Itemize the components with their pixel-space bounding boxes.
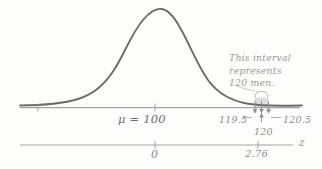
z-axis-zero-label: 0: [151, 148, 158, 162]
annotation-line-3: 120 men.: [229, 77, 291, 89]
z-axis-name-label: z: [299, 136, 305, 149]
interval-lower-bound-label: 119.5: [219, 114, 247, 126]
figure-container: μ = 100 119.5 120.5 120 0 2.76 z This in…: [0, 0, 322, 169]
interval-bracket: [255, 92, 268, 98]
interval-upper-bound-label: 120.5: [283, 114, 311, 126]
interval-midpoint-label: 120: [254, 126, 273, 138]
annotation-line-2: represents: [229, 65, 291, 77]
annotation-line-1: This interval: [229, 52, 291, 64]
mean-label: μ = 100: [118, 112, 166, 126]
z-axis-value-label: 2.76: [245, 148, 268, 161]
interval-annotation: This interval represents 120 men.: [229, 52, 291, 90]
